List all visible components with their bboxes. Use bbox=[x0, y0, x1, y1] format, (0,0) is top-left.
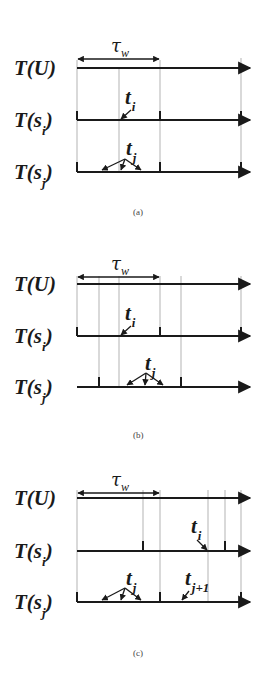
panel-a-caption: (a) bbox=[133, 207, 143, 217]
panel-b-caption: (b) bbox=[133, 430, 144, 440]
panel-a: τ w T(U) T(si) T(sj) ti tj (a) bbox=[14, 35, 250, 217]
panel-c-grid-lines bbox=[77, 490, 241, 602]
annotation-t-j-plus-1: tj+1 bbox=[185, 566, 209, 595]
t-i-pointer-arrow bbox=[121, 326, 131, 335]
row-label-T-sj: T(sj) bbox=[14, 590, 53, 620]
tau-subscript: w bbox=[121, 480, 129, 494]
row-label-T-U: T(U) bbox=[14, 56, 56, 80]
row-label-T-sj: T(sj) bbox=[14, 160, 53, 190]
panel-c: τ w T(U) T(si) T(sj) ti tj tj+1 (c) bbox=[14, 469, 250, 658]
row-label-T-si: T(si) bbox=[14, 324, 53, 354]
tau-subscript: w bbox=[121, 264, 129, 278]
timeline-figure: τ w T(U) T(si) T(sj) ti tj (a) bbox=[0, 0, 279, 679]
annotation-t-i: ti bbox=[191, 514, 202, 543]
t-i-pointer-arrow bbox=[121, 110, 131, 119]
t-i-pointer-arrow bbox=[197, 540, 207, 550]
row-label-T-U: T(U) bbox=[14, 486, 56, 510]
row-label-T-si: T(si) bbox=[14, 539, 53, 569]
row-label-T-sj: T(sj) bbox=[14, 375, 53, 405]
row-label-T-si: T(si) bbox=[14, 108, 53, 138]
panel-b: τ w T(U) T(si) T(sj) ti tj (b) bbox=[14, 253, 250, 440]
t-j-plus-1-pointer-arrow bbox=[182, 591, 189, 600]
row-label-T-U: T(U) bbox=[14, 272, 56, 296]
tau-subscript: w bbox=[121, 46, 129, 60]
panel-c-caption: (c) bbox=[133, 648, 143, 658]
